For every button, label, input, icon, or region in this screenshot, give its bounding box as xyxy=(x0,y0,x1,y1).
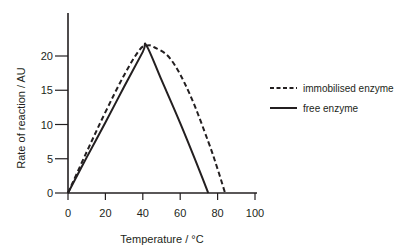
enzyme-rate-chart: 02040608010005101520 Rate of reaction / … xyxy=(0,0,405,252)
legend-label-free: free enzyme xyxy=(303,103,358,114)
legend-label-immobilised: immobilised enzyme xyxy=(303,83,394,94)
y-tick-label: 10 xyxy=(41,119,53,131)
free-enzyme-line xyxy=(68,43,208,193)
y-tick-label: 5 xyxy=(47,153,53,165)
x-axis-label: Temperature / °C xyxy=(120,233,203,245)
series-lines xyxy=(68,43,225,193)
y-tick-label: 15 xyxy=(41,84,53,96)
immobilised-enzyme-line xyxy=(68,45,225,193)
axes: 02040608010005101520 xyxy=(41,13,264,219)
x-tick-label: 0 xyxy=(65,207,71,219)
legend: immobilised enzyme free enzyme xyxy=(270,83,394,114)
x-tick-label: 20 xyxy=(99,207,111,219)
x-tick-label: 100 xyxy=(246,207,264,219)
x-tick-label: 80 xyxy=(211,207,223,219)
y-axis-label: Rate of reaction / AU xyxy=(15,67,27,169)
y-tick-label: 20 xyxy=(41,50,53,62)
y-tick-label: 0 xyxy=(47,187,53,199)
x-tick-label: 40 xyxy=(137,207,149,219)
x-tick-label: 60 xyxy=(174,207,186,219)
